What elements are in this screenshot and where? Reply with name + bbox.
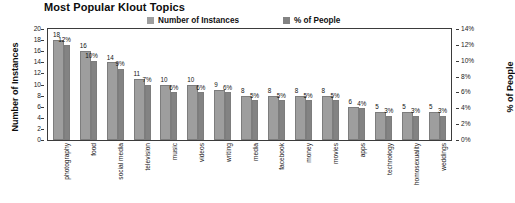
x-axis-tick-label: television [145,143,152,171]
bar-percent[interactable] [64,45,70,140]
tick-label: 6% [461,89,471,96]
bar-value-label-instances: 14 [107,55,114,61]
bar-group: 53% [402,29,419,140]
tick-mark [41,96,44,97]
bar-group: 53% [375,29,392,140]
bar-value-label-instances: 8 [241,88,245,94]
bar-group: 106% [187,29,204,140]
bar-instances[interactable] [295,96,306,140]
bar-group: 96% [214,29,231,140]
chart-title: Most Popular Klout Topics [44,1,185,13]
bar-group: 64% [348,29,365,140]
bar-value-label-instances: 11 [134,71,141,77]
tick-label: 0% [461,137,471,144]
bar-instances[interactable] [268,96,279,140]
bar-percent[interactable] [359,108,365,140]
x-axis-tick-label: writing [226,143,233,162]
x-axis-tick-label: technology [387,143,394,175]
tick-label: 20 [34,26,41,33]
tick-label: 12% [461,42,474,49]
bar-value-label-percent: 5% [250,93,259,99]
bar-percent[interactable] [440,116,446,140]
legend-swatch-percent [283,17,290,24]
x-axis-tick-label: weddings [441,143,448,171]
bar-value-label-instances: 8 [322,88,326,94]
tick-label: 16 [34,48,41,55]
bar-percent[interactable] [91,61,97,140]
bar-instances[interactable] [214,90,225,140]
bar-value-label-instances: 8 [268,88,272,94]
bar-percent[interactable] [118,69,124,140]
bar-value-label-percent: 12% [58,37,71,43]
bar-instances[interactable] [160,85,171,141]
tick-mark [41,62,44,63]
tick-mark [41,118,44,119]
tick-label: 8% [461,73,471,80]
bar-value-label-instances: 6 [348,99,352,105]
bar-instances[interactable] [429,112,440,140]
y-axis-title: Number of Instances [10,39,20,135]
tick-mark [41,129,44,130]
bar-percent[interactable] [145,85,151,141]
bar-value-label-percent: 7% [142,77,151,83]
x-axis-tick-label: homosexuality [414,143,421,185]
tick-mark [456,92,459,93]
tick-label: 14% [461,26,474,33]
bar-instances[interactable] [402,112,413,140]
tick-label: 4% [461,105,471,112]
bar-percent[interactable] [198,92,204,140]
tick-label: 14 [34,59,41,66]
x-axis-category-labels: photographyfoodsocial mediatelevisionmus… [48,143,451,203]
bar-percent[interactable] [306,100,312,140]
bar-value-label-instances: 5 [429,104,433,110]
tick-mark [41,85,44,86]
bar-percent[interactable] [386,116,392,140]
bar-group: 1812% [53,29,70,140]
bar-instances[interactable] [134,79,145,140]
bar-percent[interactable] [413,116,419,140]
bar-value-label-percent: 9% [116,61,125,67]
bar-value-label-percent: 5% [330,93,339,99]
legend-item-number-of-instances: Number of Instances [147,16,239,25]
bar-value-label-percent: 6% [223,85,232,91]
bar-percent[interactable] [333,100,339,140]
x-axis-tick-label: videos [199,143,206,162]
bar-group: 85% [295,29,312,140]
tick-mark [41,40,44,41]
chart-legend: Number of Instances % of People [147,16,340,25]
x-axis-tick-label: movies [333,143,340,164]
bar-percent[interactable] [171,92,177,140]
tick-mark [41,51,44,52]
tick-mark [456,29,459,30]
bar-value-label-instances: 5 [375,104,379,110]
y2-axis-ticks: 14%12%10%8%6%4%2%0% [455,28,481,141]
bar-instances[interactable] [241,96,252,140]
bar-group: 149% [107,29,124,140]
bar-value-label-instances: 10 [187,77,194,83]
y-axis-ticks: 20181614121086420 [22,28,44,141]
bar-instances[interactable] [375,112,386,140]
bar-percent[interactable] [252,100,258,140]
bar-group: 117% [134,29,151,140]
tick-mark [456,61,459,62]
bar-percent[interactable] [279,100,285,140]
y2-axis-title: % of People [505,39,515,135]
bar-instances[interactable] [53,40,64,140]
bar-value-label-percent: 4% [357,101,366,107]
bar-instances[interactable] [107,62,118,140]
tick-mark [456,140,459,141]
bar-percent[interactable] [225,92,231,140]
bar-value-label-percent: 5% [277,93,286,99]
tick-mark [41,29,44,30]
bar-instances[interactable] [348,107,359,140]
bar-group: 85% [241,29,258,140]
bar-instances[interactable] [187,85,198,141]
bar-instances[interactable] [322,96,333,140]
tick-label: 10% [461,57,474,64]
bar-value-label-percent: 6% [169,85,178,91]
tick-mark [41,140,44,141]
legend-swatch-instances [147,17,154,24]
tick-mark [456,108,459,109]
bar-instances[interactable] [80,51,91,140]
